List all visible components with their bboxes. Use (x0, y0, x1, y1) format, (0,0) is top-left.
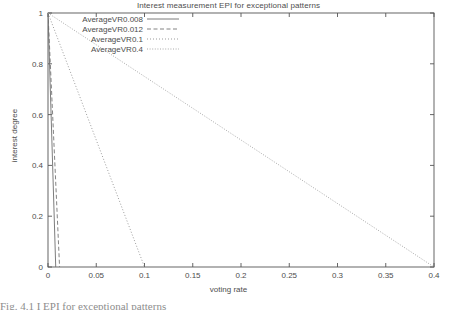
legend-line-sample (146, 35, 180, 43)
y-tick-label: 1 (14, 9, 43, 18)
x-tick-label: 0.35 (378, 271, 394, 280)
figure-container: Interest measurement EPI for exceptional… (0, 0, 457, 310)
legend-line-sample (146, 45, 180, 53)
figure-caption: Fig. 4.1 I EPI for exceptional patterns (0, 300, 457, 310)
y-axis-title: interest degree (10, 101, 19, 171)
legend-label: AverageVR0.012 (82, 25, 146, 34)
legend-item: AverageVR0.008 (56, 14, 180, 24)
x-tick-label: 0.05 (88, 271, 104, 280)
legend-item: AverageVR0.012 (56, 24, 180, 34)
x-tick-label: 0 (46, 271, 50, 280)
chart-legend: AverageVR0.008AverageVR0.012AverageVR0.1… (56, 14, 180, 54)
legend-label: AverageVR0.4 (91, 45, 146, 54)
x-tick-label: 0.2 (235, 271, 246, 280)
legend-label: AverageVR0.008 (82, 15, 146, 24)
legend-line-sample (146, 25, 180, 33)
legend-line-sample (146, 15, 180, 23)
x-tick-label: 0.4 (428, 271, 439, 280)
x-axis-title: voting rate (0, 285, 457, 294)
x-tick-label: 0.15 (185, 271, 201, 280)
x-tick-label: 0.1 (139, 271, 150, 280)
y-tick-label: 0.8 (14, 59, 43, 68)
y-tick-label: 0.2 (14, 212, 43, 221)
legend-item: AverageVR0.1 (56, 34, 180, 44)
series-line-0 (48, 13, 56, 267)
x-tick-label: 0.25 (281, 271, 297, 280)
legend-item: AverageVR0.4 (56, 44, 180, 54)
x-tick-label: 0.3 (332, 271, 343, 280)
y-tick-label: 0 (14, 263, 43, 272)
legend-label: AverageVR0.1 (91, 35, 146, 44)
